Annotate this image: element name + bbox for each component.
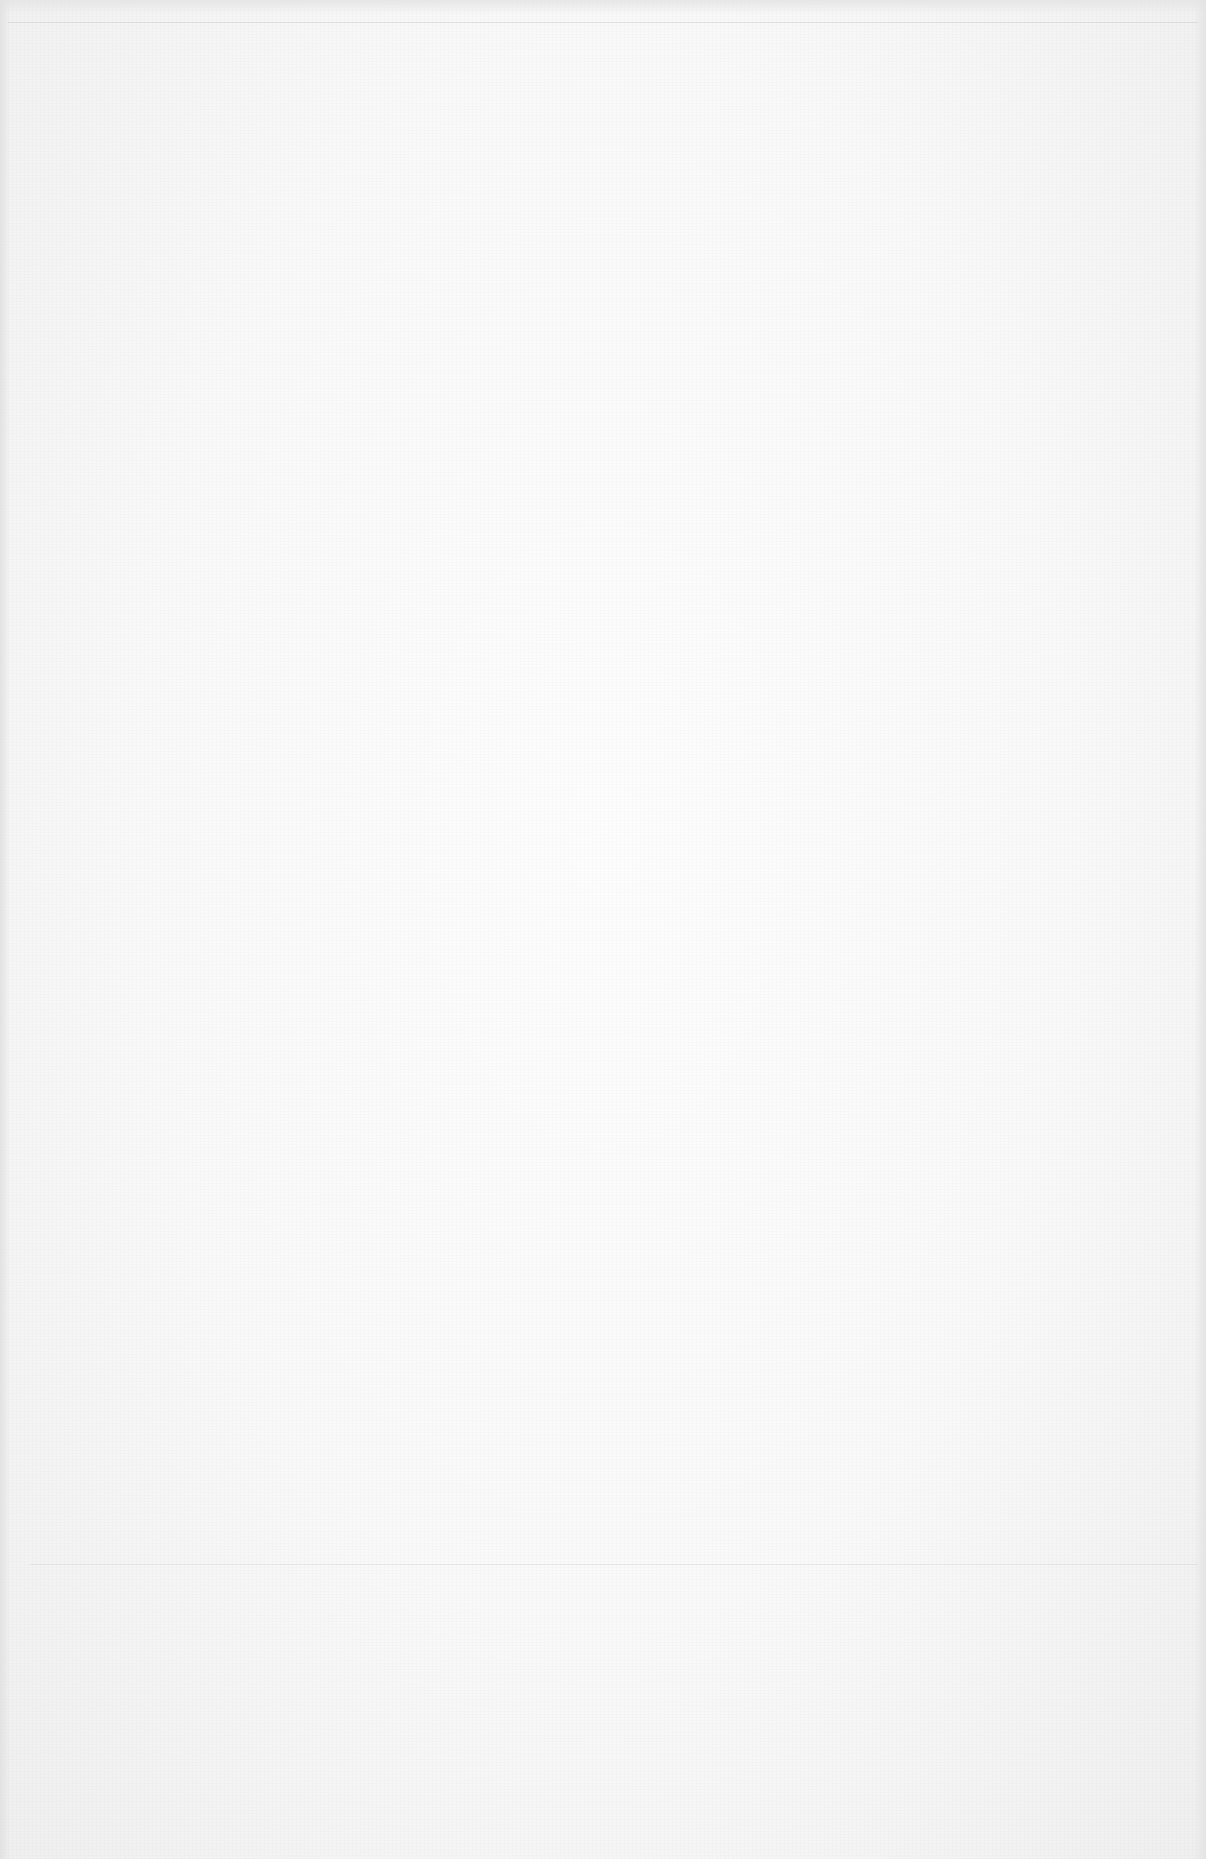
faint-top-rule bbox=[8, 22, 1198, 23]
page-right-edge-shadow bbox=[1194, 0, 1206, 1859]
faint-bottom-rule bbox=[30, 1564, 1198, 1565]
blank-paper-page bbox=[0, 0, 1206, 1859]
page-left-edge-shadow bbox=[0, 0, 10, 1859]
page-top-edge-shadow bbox=[0, 0, 1206, 14]
